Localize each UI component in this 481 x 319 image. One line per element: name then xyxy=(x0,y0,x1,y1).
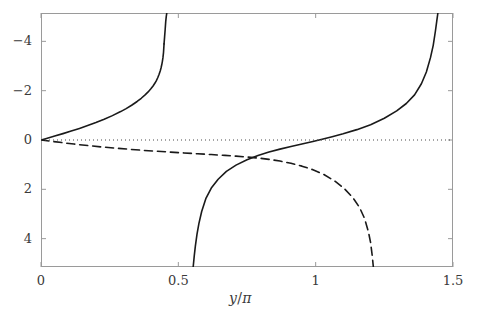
x-tick-label-1p5: 1.5 xyxy=(423,274,481,287)
solid-curve-branch-1 xyxy=(41,44,164,140)
axes-frame xyxy=(42,14,453,267)
y-tick-label-neg2: −2 xyxy=(0,84,32,97)
x-tick-label-1: 1 xyxy=(286,274,346,287)
axis-ticks xyxy=(41,13,453,267)
x-axis-title: y/π xyxy=(0,290,481,306)
x-tick-label-0: 0 xyxy=(11,274,71,287)
plot-svg xyxy=(0,0,481,319)
y-tick-label-4: 4 xyxy=(0,232,32,245)
y-tick-label-0: 0 xyxy=(0,133,32,146)
x-axis-title-denominator: π xyxy=(242,290,252,306)
solid-curve-branch-1-tail xyxy=(164,13,167,44)
dashed-curve xyxy=(41,140,373,267)
y-tick-label-2: 2 xyxy=(0,182,32,195)
x-tick-label-0p5: 0.5 xyxy=(148,274,208,287)
figure-canvas: 4 2 0 −2 −4 0 0.5 1 1.5 y/π xyxy=(0,0,481,319)
data-curves xyxy=(41,13,453,267)
y-tick-label-neg4: −4 xyxy=(0,34,32,47)
